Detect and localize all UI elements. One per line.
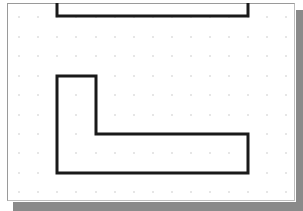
grid-dot [172, 153, 173, 154]
grid-dot [153, 192, 154, 193]
grid-dot [286, 95, 287, 96]
grid-dot [248, 56, 249, 57]
grid-dot [19, 17, 20, 18]
grid-dot [115, 192, 116, 193]
grid-dot [286, 17, 287, 18]
grid-dot [153, 37, 154, 38]
grid-dot [267, 37, 268, 38]
grid-dot [96, 37, 97, 38]
grid-dot [248, 192, 249, 193]
grid-dot [76, 95, 77, 96]
grid-dot [229, 37, 230, 38]
grid-dot [134, 192, 135, 193]
grid-dot [19, 134, 20, 135]
grid-dot [172, 192, 173, 193]
grid-dot [210, 56, 211, 57]
grid-dot [38, 76, 39, 77]
grid-dot [76, 153, 77, 154]
grid-dot [267, 56, 268, 57]
grid-dot [191, 95, 192, 96]
grid-dot [172, 115, 173, 116]
grid-dot [134, 76, 135, 77]
grid-dot [153, 115, 154, 116]
grid-dot [210, 192, 211, 193]
grid-dot [115, 95, 116, 96]
grid-dot [248, 95, 249, 96]
grid-dot [19, 192, 20, 193]
grid-dot [115, 37, 116, 38]
grid-dot [267, 17, 268, 18]
grid-dot [210, 153, 211, 154]
grid-dot [286, 134, 287, 135]
grid-dot [38, 192, 39, 193]
grid-dot [229, 76, 230, 77]
grid-dot [210, 37, 211, 38]
grid-dot [191, 192, 192, 193]
grid-dot [57, 192, 58, 193]
grid-dot [134, 153, 135, 154]
grid-dot [76, 37, 77, 38]
grid-dot [153, 76, 154, 77]
grid-dot [191, 115, 192, 116]
grid-dot [286, 56, 287, 57]
grid-dot [134, 95, 135, 96]
grid-dot [191, 153, 192, 154]
grid-dot [38, 56, 39, 57]
grid-dot [191, 37, 192, 38]
grid-dot [76, 134, 77, 135]
grid-dot [153, 95, 154, 96]
grid-dot [57, 37, 58, 38]
grid-dot [76, 115, 77, 116]
grid-dot [38, 115, 39, 116]
grid-dot [19, 153, 20, 154]
grid-dot [286, 37, 287, 38]
grid-dot [286, 192, 287, 193]
grid-dot [38, 17, 39, 18]
grid-dot [115, 115, 116, 116]
grid-dot [38, 37, 39, 38]
grid-dot [286, 76, 287, 77]
grid-dot [229, 153, 230, 154]
grid-dot [19, 76, 20, 77]
grid-dot [76, 192, 77, 193]
grid-dot [210, 76, 211, 77]
grid-dot [115, 56, 116, 57]
grid-dot [172, 37, 173, 38]
grid-dot [267, 76, 268, 77]
grid-dot [38, 95, 39, 96]
grid-dot [229, 192, 230, 193]
top-channel-outline[interactable] [57, 3, 248, 16]
grid-dot [153, 56, 154, 57]
grid-dot [19, 95, 20, 96]
grid-dot [96, 56, 97, 57]
grid-dot [267, 153, 268, 154]
grid-dot [19, 115, 20, 116]
grid-dot [172, 76, 173, 77]
grid-dot [19, 56, 20, 57]
grid-dot [248, 115, 249, 116]
grid-dot [191, 76, 192, 77]
grid-dot [115, 153, 116, 154]
grid-dot [38, 134, 39, 135]
l-shape-outline[interactable] [57, 76, 248, 173]
grid-dot [19, 173, 20, 174]
grid-dot [191, 56, 192, 57]
sketch-shapes [57, 3, 248, 173]
grid-dot [267, 173, 268, 174]
grid-dot [134, 115, 135, 116]
grid-dot [210, 95, 211, 96]
drawing-svg [0, 0, 303, 211]
grid-dot [267, 95, 268, 96]
grid-dot [286, 173, 287, 174]
grid-dot [267, 134, 268, 135]
grid-dot [19, 37, 20, 38]
grid-dot [267, 192, 268, 193]
grid-dot [38, 173, 39, 174]
grid-dot [153, 153, 154, 154]
grid-dot [76, 56, 77, 57]
grid-dot [286, 115, 287, 116]
grid-dot [57, 56, 58, 57]
grid-dot [210, 115, 211, 116]
dot-grid [19, 17, 287, 193]
grid-dot [172, 95, 173, 96]
